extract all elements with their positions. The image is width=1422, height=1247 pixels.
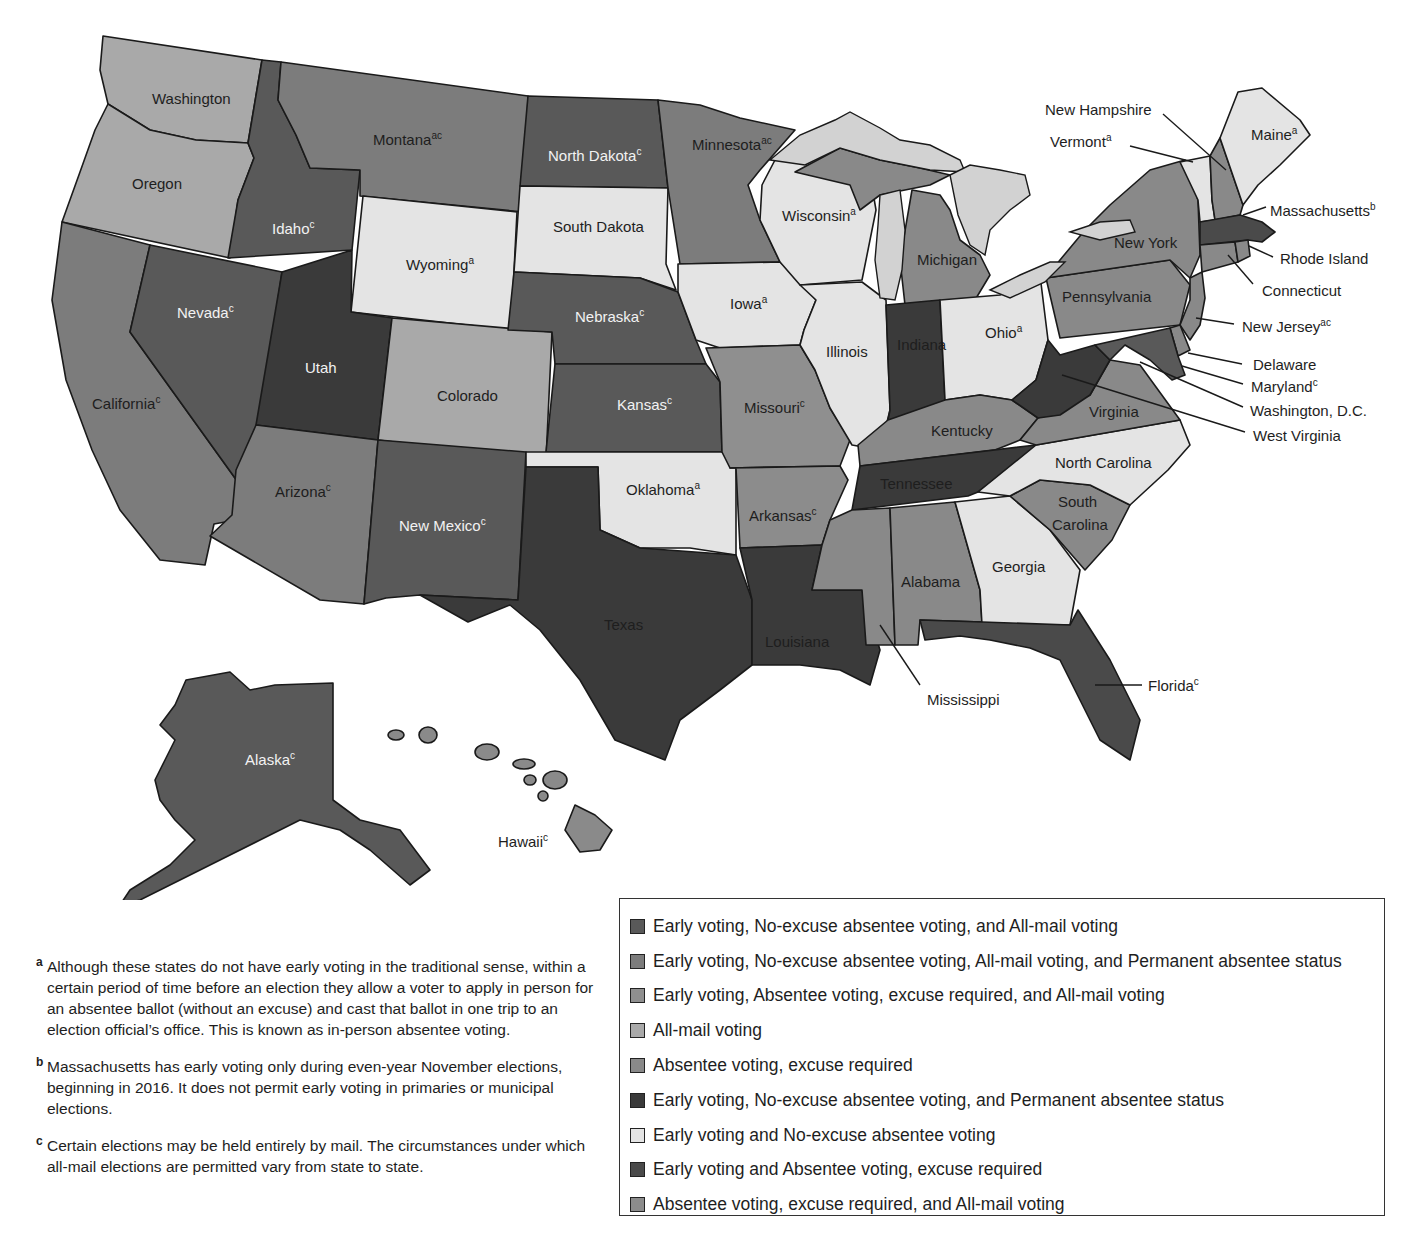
legend-label: Early voting, Absentee voting, excuse re… [653,985,1165,1006]
legend-label: Early voting, No-excuse absentee voting,… [653,916,1118,937]
label-arizona: Arizonac [275,482,331,500]
label-wyoming: Wyominga [406,255,474,273]
state-north-dakota [520,96,668,188]
label-colorado: Colorado [437,387,498,404]
legend-swatch [630,1023,645,1038]
label-nevada: Nevadac [177,303,234,321]
callout-maine: Mainea [1251,125,1298,143]
footnote-text: Certain elections may be held entirely b… [47,1137,585,1175]
legend-swatch [630,1162,645,1177]
callout-west-virginia: West Virginia [1253,427,1341,444]
legend-label: Absentee voting, excuse required [653,1055,913,1076]
label-oregon: Oregon [132,175,182,192]
label-south-carolina-line2: Carolina [1052,516,1109,533]
state-alaska [120,672,430,900]
lake-michigan [875,190,905,300]
legend-swatch [630,919,645,934]
label-illinois: Illinois [826,343,868,360]
label-new-york: New York [1114,234,1178,251]
state-new-york [1046,160,1200,278]
label-missouri: Missouric [744,398,805,416]
label-kentucky: Kentucky [931,422,993,439]
footnotes: a Although these states do not have earl… [36,956,606,1193]
legend-label: Early voting, No-excuse absentee voting,… [653,1090,1224,1111]
label-louisiana: Louisiana [765,633,830,650]
label-alabama: Alabama [901,573,961,590]
callout-rhode-island: Rhode Island [1280,250,1368,267]
label-oklahoma: Oklahomaa [626,480,700,498]
legend-label: Early voting, No-excuse absentee voting,… [653,951,1342,972]
label-idaho: Idahoc [272,219,315,237]
label-arkansas: Arkansasc [749,506,817,524]
state-indiana [886,300,945,420]
callout-mississippi: Mississippi [927,691,1000,708]
label-south-dakota: South Dakota [553,218,645,235]
legend-item: All-mail voting [630,1013,1384,1048]
label-nebraska: Nebraskac [575,307,644,325]
legend-swatch [630,1093,645,1108]
footnote-marker: b [36,1052,43,1073]
callout-washington-dc: Washington, D.C. [1250,402,1367,419]
label-texas: Texas [604,616,643,633]
legend-item: Early voting, No-excuse absentee voting,… [630,944,1384,979]
label-virginia: Virginia [1089,403,1139,420]
footnote-b: b Massachusetts has early voting only du… [36,1056,606,1119]
legend-item: Early voting, No-excuse absentee voting,… [630,909,1384,944]
callout-new-hampshire: New Hampshire [1045,101,1152,118]
callout-connecticut: Connecticut [1262,282,1342,299]
footnote-marker: a [36,952,43,973]
footnote-marker: c [36,1131,43,1152]
label-washington: Washington [152,90,231,107]
label-tennessee: Tennessee [880,475,953,492]
legend-item: Early voting and Absentee voting, excuse… [630,1153,1384,1188]
legend-label: Early voting and Absentee voting, excuse… [653,1159,1042,1180]
footnote-a: a Although these states do not have earl… [36,956,606,1040]
legend-swatch [630,1058,645,1073]
footnote-c: c Certain elections may be held entirely… [36,1135,606,1177]
callout-maryland: Marylandc [1251,377,1318,395]
us-map: Washington Oregon Californiac Idahoc Nev… [0,0,1422,900]
label-north-carolina: North Carolina [1055,454,1152,471]
legend-item: Early voting, No-excuse absentee voting,… [630,1083,1384,1118]
footnote-text: Massachusetts has early voting only duri… [47,1058,562,1117]
label-utah: Utah [305,359,337,376]
legend-swatch [630,1197,645,1212]
legend-swatch [630,954,645,969]
legend-label: All-mail voting [653,1020,762,1041]
legend-item: Absentee voting, excuse required, and Al… [630,1187,1384,1222]
label-alaska: Alaskac [245,750,295,768]
footnote-text: Although these states do not have early … [47,958,593,1038]
legend-item: Early voting, Absentee voting, excuse re… [630,979,1384,1014]
callout-vermont: Vermonta [1050,132,1112,150]
legend-swatch [630,988,645,1003]
label-north-dakota: North Dakotac [548,146,641,164]
label-minnesota: Minnesotaac [692,135,772,153]
label-kansas: Kansasc [617,395,672,413]
callout-new-jersey: New Jerseyac [1242,317,1331,335]
label-wisconsin: Wisconsina [782,206,856,224]
state-connecticut [1200,242,1238,272]
label-indiana: Indiana [897,336,947,353]
label-hawaii: Hawaiic [498,832,548,850]
legend-label: Absentee voting, excuse required, and Al… [653,1194,1065,1215]
callout-delaware: Delaware [1253,356,1316,373]
legend-item: Absentee voting, excuse required [630,1048,1384,1083]
label-south-carolina-line1: South [1058,493,1097,510]
callout-massachusetts: Massachusettsb [1270,201,1376,219]
state-rhode-island [1235,240,1250,262]
label-georgia: Georgia [992,558,1046,575]
callout-florida: Floridac [1148,676,1199,694]
legend: Early voting, No-excuse absentee voting,… [619,898,1385,1216]
state-massachusetts [1200,215,1275,245]
legend-label: Early voting and No-excuse absentee voti… [653,1125,995,1146]
label-pennsylvania: Pennsylvania [1062,288,1152,305]
label-michigan: Michigan [917,251,977,268]
legend-item: Early voting and No-excuse absentee voti… [630,1118,1384,1153]
legend-swatch [630,1128,645,1143]
label-new-mexico: New Mexicoc [399,516,486,534]
label-california: Californiac [92,394,160,412]
